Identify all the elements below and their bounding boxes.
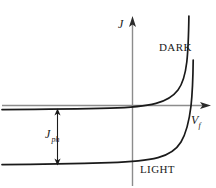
photocurrent-label-subscript: ph <box>51 135 60 144</box>
light-curve-path <box>2 60 193 165</box>
y-axis-label-group: J <box>118 17 124 31</box>
x-axis-label-group: V f <box>191 113 203 130</box>
y-axis-label: J <box>118 17 124 31</box>
dark-curve-path <box>2 16 189 110</box>
jv-characteristic-figure: J V f J ph DARK LIGHT <box>0 0 216 188</box>
x-axis-label-subscript: f <box>199 121 203 130</box>
dark-curve-label: DARK <box>159 41 192 53</box>
photocurrent-label-main: J <box>45 127 51 141</box>
light-curve-label: LIGHT <box>140 163 175 175</box>
